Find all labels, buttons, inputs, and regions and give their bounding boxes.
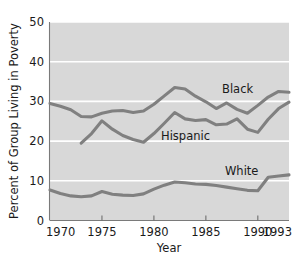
x-tick-label: 1993 bbox=[263, 225, 292, 239]
y-tick-label-group: 01020304050 bbox=[29, 15, 44, 228]
series-label-black: Black bbox=[222, 82, 253, 96]
x-tick-label-group: 197019751980198519901993 bbox=[46, 225, 292, 239]
x-axis-title: Year bbox=[156, 241, 182, 255]
x-tick-label: 1985 bbox=[191, 225, 220, 239]
y-tick-label: 50 bbox=[29, 15, 44, 29]
x-tick-label: 1980 bbox=[139, 225, 168, 239]
poverty-line-chart: 01020304050 197019751980198519901993 Bla… bbox=[0, 0, 308, 266]
y-tick-label: 10 bbox=[29, 174, 44, 188]
series-label-white: White bbox=[225, 164, 258, 178]
y-tick-label: 0 bbox=[37, 214, 44, 228]
x-tick-label: 1970 bbox=[46, 225, 75, 239]
y-tick-label: 40 bbox=[29, 55, 44, 69]
chart-canvas: 01020304050 197019751980198519901993 Bla… bbox=[0, 0, 308, 266]
x-tick-label: 1975 bbox=[87, 225, 116, 239]
series-label-hispanic: Hispanic bbox=[161, 129, 210, 143]
y-tick-label: 20 bbox=[29, 134, 44, 148]
y-tick-label: 30 bbox=[29, 94, 44, 108]
y-axis-title: Percent of Group Living in Poverty bbox=[7, 23, 21, 219]
